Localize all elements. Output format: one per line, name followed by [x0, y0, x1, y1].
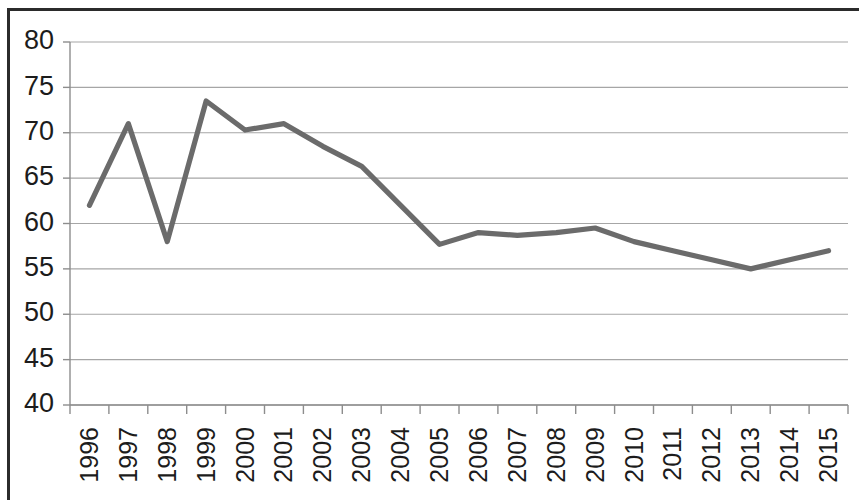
line-chart: 807570656055504540 199619971998199920002… — [0, 0, 861, 501]
x-axis-tick-label: 2008 — [542, 427, 570, 483]
x-axis-tick-labels: 1996199719981999200020012002200320042005… — [75, 427, 842, 483]
x-axis-tick-label: 2006 — [464, 427, 492, 483]
x-axis-tick-label: 2015 — [814, 427, 842, 483]
y-axis-tick-label: 50 — [24, 297, 54, 327]
x-axis-tick-label: 2012 — [697, 427, 725, 483]
y-axis-tick-label: 65 — [24, 161, 54, 191]
x-axis-tick-label: 2010 — [620, 427, 648, 483]
x-axis-tick-label: 2007 — [503, 427, 531, 483]
chart-container: 807570656055504540 199619971998199920002… — [0, 0, 861, 501]
data-series-line — [89, 101, 828, 269]
x-axis-tick-label: 2003 — [347, 427, 375, 483]
x-axis-tick-label: 2000 — [231, 427, 259, 483]
x-axis-tick-label: 2009 — [581, 427, 609, 483]
data-series-group — [89, 101, 828, 269]
y-axis-tick-labels: 807570656055504540 — [24, 25, 54, 418]
x-axis-tick-label: 1999 — [192, 427, 220, 483]
x-axis-tick-label: 1998 — [153, 427, 181, 483]
y-axis-tick-label: 40 — [24, 388, 54, 418]
y-axis-tick-label: 80 — [24, 25, 54, 55]
y-axis-tick-label: 75 — [24, 71, 54, 101]
y-axis-tick-label: 60 — [24, 207, 54, 237]
y-axis — [63, 42, 70, 405]
x-axis-tick-label: 1996 — [75, 427, 103, 483]
x-axis-tick-label: 2011 — [658, 427, 686, 481]
x-axis-tick-label: 2002 — [308, 427, 336, 483]
x-axis-tick-label: 2014 — [775, 427, 803, 483]
x-axis-tick-label: 2004 — [386, 427, 414, 483]
x-axis-tick-label: 2001 — [269, 427, 297, 483]
x-axis-tick-label: 1997 — [114, 427, 142, 483]
x-axis-tick-label: 2013 — [736, 427, 764, 483]
x-axis-tick-label: 2005 — [425, 427, 453, 483]
y-axis-tick-label: 45 — [24, 343, 54, 373]
gridlines-group — [70, 42, 848, 405]
y-axis-tick-label: 70 — [24, 116, 54, 146]
x-axis — [70, 405, 848, 414]
y-axis-tick-label: 55 — [24, 252, 54, 282]
